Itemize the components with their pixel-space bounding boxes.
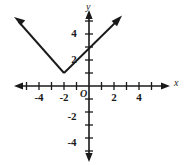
coordinate-plane-svg — [0, 0, 187, 165]
y-tick-label-2: 2 — [68, 54, 80, 65]
graph-figure: -4 -2 2 4 4 2 -2 -4 O x y — [0, 0, 187, 165]
x-tick-label-2: 2 — [108, 92, 120, 103]
y-tick-label-neg4: -4 — [64, 137, 80, 148]
x-tick-label-4: 4 — [133, 92, 145, 103]
x-axis — [14, 82, 170, 89]
y-axis-label: y — [86, 2, 90, 12]
x-tick-label-neg2: -2 — [56, 92, 72, 103]
x-axis-label: x — [174, 78, 178, 88]
y-tick-label-neg2: -2 — [64, 111, 80, 122]
origin-label: O — [80, 89, 87, 99]
function-left-branch — [14, 17, 64, 73]
y-tick-label-4: 4 — [68, 28, 80, 39]
x-tick-label-neg4: -4 — [31, 92, 47, 103]
